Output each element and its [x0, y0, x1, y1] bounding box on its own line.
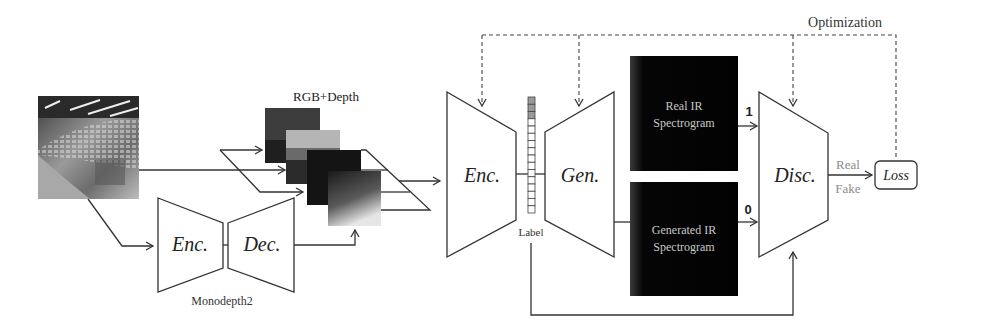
monodepth-decoder-label: Dec.: [242, 233, 280, 255]
generated-ir-line2: Spectrogram: [653, 240, 715, 254]
latent-cell: [528, 126, 535, 133]
monodepth-encoder-label: Enc.: [171, 233, 208, 255]
generator-label: Gen.: [561, 164, 599, 186]
generated-ir-spectrogram-box: [630, 182, 738, 296]
real-target-label: 1: [745, 104, 752, 119]
latent-cell: [528, 141, 535, 148]
generated-target-label: 0: [744, 202, 751, 217]
generated-ir-line1: Generated IR: [652, 223, 716, 237]
optimization-label: Optimization: [808, 15, 882, 30]
real-ir-line2: Spectrogram: [653, 116, 715, 130]
latent-cell: [528, 206, 535, 213]
discriminator-label: Disc.: [773, 164, 816, 186]
monodepth-caption: Monodepth2: [191, 294, 252, 308]
real-ir-line1: Real IR: [666, 99, 703, 113]
latent-cell: [528, 119, 535, 126]
latent-label-text: Label: [518, 226, 543, 238]
real-output-label: Real: [836, 157, 860, 172]
real-ir-spectrogram-box: [630, 56, 738, 171]
latent-cell: [528, 184, 535, 191]
encoder-label: Enc.: [463, 164, 500, 186]
fake-output-label: Fake: [835, 181, 861, 196]
latent-cell: [528, 133, 535, 140]
latent-cell: [528, 177, 535, 184]
latent-cell: [528, 170, 535, 177]
latent-cell: [528, 97, 535, 104]
input-photo: [38, 96, 139, 199]
photo-to-monodepth-arrow: [88, 199, 153, 246]
latent-cell: [528, 148, 535, 155]
architecture-diagram: Enc. Dec. Monodepth2 RGB+Depth Optimizat…: [0, 0, 983, 330]
latent-cell: [528, 191, 535, 198]
latent-cell: [528, 199, 535, 206]
latent-cell: [528, 162, 535, 169]
loss-label: Loss: [882, 168, 909, 183]
latent-label-vector: [528, 97, 535, 213]
rgb-depth-label: RGB+Depth: [293, 89, 359, 104]
latent-cell: [528, 155, 535, 162]
depth-output-arrow: [294, 230, 355, 245]
latent-cell: [528, 104, 535, 111]
latent-cell: [528, 112, 535, 119]
